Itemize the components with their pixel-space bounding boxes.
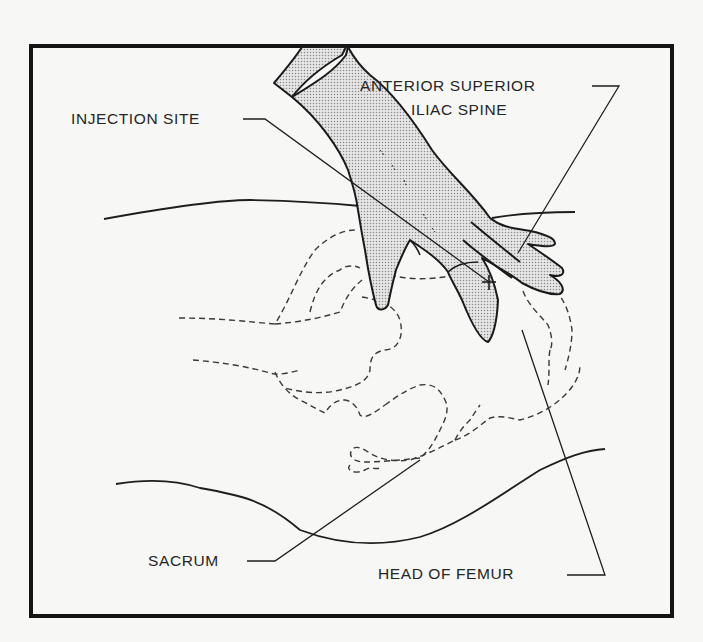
hip-contour-line-right (492, 212, 575, 218)
leader-asis (518, 86, 619, 253)
label-asis-line1: ANTERIOR SUPERIOR (360, 77, 536, 95)
buttock-contour-line (116, 449, 605, 543)
label-injection-site: INJECTION SITE (71, 110, 200, 128)
hip-contour-line (104, 200, 360, 219)
anatomical-diagram: INJECTION SITE ANTERIOR SUPERIOR ILIAC S… (0, 0, 703, 642)
label-asis-line2: ILIAC SPINE (411, 101, 507, 119)
leader-head-of-femur (522, 330, 605, 575)
label-head-of-femur: HEAD OF FEMUR (378, 565, 514, 583)
label-sacrum: SACRUM (148, 552, 219, 570)
